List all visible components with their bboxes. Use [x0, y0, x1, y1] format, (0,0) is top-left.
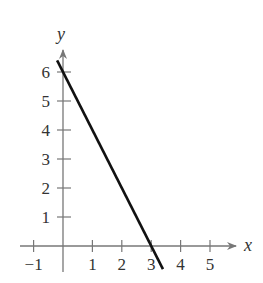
y-axis-label: y	[55, 24, 65, 44]
x-axis-label: x	[243, 235, 252, 255]
x-tick-label: 4	[176, 255, 185, 274]
y-tick-label: 5	[42, 92, 51, 111]
x-tick-label: 1	[88, 255, 97, 274]
x-ticks: −112345	[25, 240, 215, 274]
y-ticks: 123456	[42, 63, 72, 227]
line-series	[57, 60, 163, 269]
y-tick-label: 3	[42, 150, 51, 169]
data-series	[57, 60, 163, 269]
x-tick-label: −1	[25, 255, 43, 274]
y-tick-label: 4	[42, 121, 51, 140]
x-tick-label: 3	[147, 255, 156, 274]
y-tick-label: 6	[42, 63, 51, 82]
y-tick-label: 1	[42, 208, 51, 227]
axes	[20, 50, 236, 272]
chart: −112345 123456 x y	[0, 0, 263, 283]
x-tick-label: 5	[206, 255, 215, 274]
x-tick-label: 2	[118, 255, 127, 274]
y-tick-label: 2	[42, 179, 51, 198]
